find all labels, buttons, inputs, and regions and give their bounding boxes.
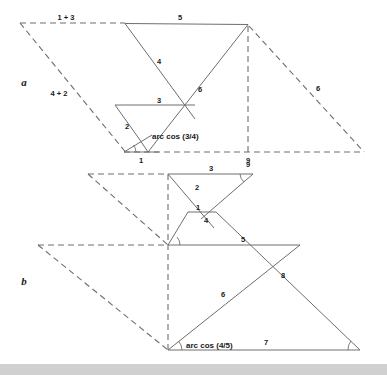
label-b-top: 3 bbox=[209, 164, 213, 173]
panel-b-edge-tiny-to-mid bbox=[168, 212, 188, 245]
panel-b-dashed-lower-diagonal bbox=[38, 245, 168, 350]
label-b-arccos: arc cos (4/5) bbox=[186, 341, 233, 350]
label-a-small-left: 2 bbox=[125, 122, 129, 131]
panel-b-angle-arc-top-right bbox=[240, 174, 244, 182]
panel-b-edge-right-diagonal bbox=[216, 212, 360, 350]
label-b-top-right-corner: 9 bbox=[246, 160, 250, 169]
panel-b-dashed-upper-diagonal bbox=[88, 174, 168, 245]
panel-a-dashed-right-diagonal bbox=[249, 26, 364, 152]
panel-label-b: b bbox=[21, 275, 27, 287]
panel-a-dashed-left-diagonal bbox=[20, 23, 126, 152]
figure-canvas: 1 + 3 4 + 2 5 4 6 3 2 1 9 6 arc cos (3/4… bbox=[0, 0, 387, 375]
label-a-base-small: 1 bbox=[139, 156, 143, 165]
label-b-lower-diag: 6 bbox=[221, 290, 225, 299]
label-a-top-solid: 5 bbox=[178, 13, 182, 22]
panel-a-edge-top bbox=[125, 24, 248, 25]
panel-b-angle-arc-base-left bbox=[179, 341, 183, 350]
panel-label-a: a bbox=[21, 76, 27, 88]
label-b-base: 7 bbox=[264, 338, 268, 347]
label-b-upper-left-diag: 2 bbox=[195, 183, 199, 192]
label-a-mid-horizontal: 3 bbox=[157, 96, 161, 105]
label-a-diag-right: 6 bbox=[198, 85, 202, 94]
panel-b-angle-arc-mid-left bbox=[177, 237, 180, 245]
panel-b-angle-arc-base-right bbox=[348, 341, 351, 350]
label-a-top-dashed: 1 + 3 bbox=[58, 13, 75, 22]
label-a-left-dashed: 4 + 2 bbox=[51, 89, 68, 98]
label-b-tiny-horizontal: 1 bbox=[196, 203, 200, 212]
panel-b-labels: 3 9 2 1 4 5 8 6 7 arc cos (4/5) b bbox=[21, 160, 285, 350]
label-a-diag-long: 4 bbox=[157, 57, 162, 66]
panel-b-edge-long-diagonal bbox=[168, 245, 300, 350]
label-b-mid-horizontal: 5 bbox=[241, 235, 245, 244]
panel-a-angle-arc bbox=[134, 145, 137, 152]
geometry-figure: 1 + 3 4 + 2 5 4 6 3 2 1 9 6 arc cos (3/4… bbox=[0, 0, 387, 375]
panel-b-solid-shape bbox=[168, 174, 360, 350]
label-a-arccos: arc cos (3/4) bbox=[152, 132, 199, 141]
panel-a-labels: 1 + 3 4 + 2 5 4 6 3 2 1 9 6 arc cos (3/4… bbox=[21, 13, 320, 165]
label-a-right-dashed: 6 bbox=[316, 84, 320, 93]
label-b-right-diag: 8 bbox=[281, 271, 285, 280]
bottom-gray-bar bbox=[0, 364, 387, 375]
panel-b-dashed-outline bbox=[38, 174, 168, 350]
